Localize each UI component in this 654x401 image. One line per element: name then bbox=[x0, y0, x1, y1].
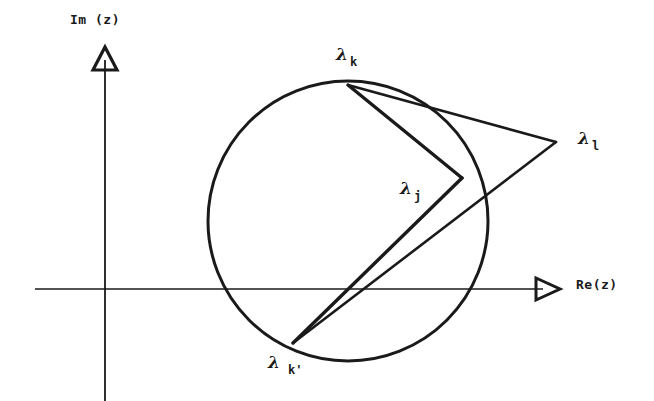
subscript-k: k bbox=[350, 55, 357, 69]
subscript-j: j bbox=[414, 189, 421, 203]
real-axis-label: Re(z) bbox=[576, 277, 618, 292]
unit-circle bbox=[208, 81, 488, 361]
segment-lambdaj-lambdakprime bbox=[293, 178, 462, 343]
point-label-lambda-l: λl bbox=[578, 128, 597, 148]
subscript-l: l bbox=[592, 139, 599, 153]
subscript-k-prime: k' bbox=[288, 363, 302, 377]
point-label-lambda-k: λk bbox=[336, 44, 355, 64]
diagram-canvas bbox=[0, 0, 654, 401]
imaginary-axis-label: Im (z) bbox=[70, 12, 120, 27]
point-label-lambda-k-prime: λk' bbox=[268, 352, 294, 372]
lambda-glyph-k: λ bbox=[336, 44, 348, 64]
complex-plane-figure: Im (z) Re(z) λk λl λj λk' bbox=[0, 0, 654, 401]
lambda-glyph-j: λ bbox=[400, 178, 412, 198]
segment-lambdak-lambdal bbox=[348, 85, 556, 142]
segment-lambdal-lambdakprime bbox=[293, 142, 556, 343]
lambda-glyph-k-prime: λ bbox=[268, 352, 280, 372]
point-label-lambda-j: λj bbox=[400, 178, 419, 198]
segment-lambdak-lambdaj bbox=[348, 85, 462, 178]
lambda-glyph-l: λ bbox=[578, 128, 590, 148]
